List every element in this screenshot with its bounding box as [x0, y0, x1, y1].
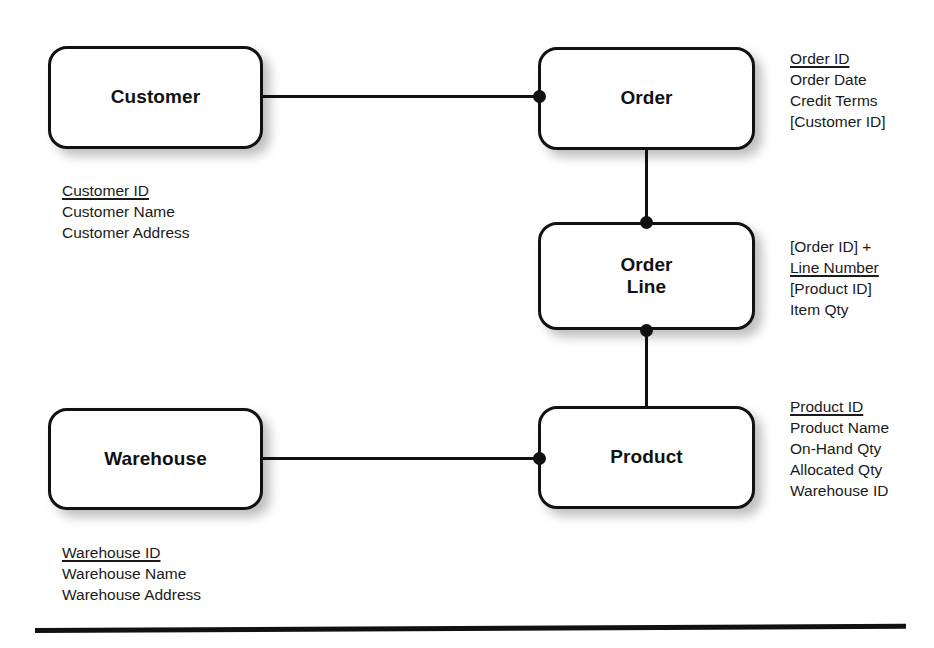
attribute-customer-id: Customer ID [62, 180, 190, 201]
attribute-order-date: Order Date [790, 69, 886, 90]
attribute-order-customer-id: [Customer ID] [790, 111, 886, 132]
cardinality-dot-order-line-top [640, 216, 653, 229]
attribute-line-number: Line Number [790, 257, 879, 278]
bottom-divider [35, 624, 906, 633]
attribute-on-hand-qty: On-Hand Qty [790, 438, 889, 459]
entity-label-warehouse: Warehouse [104, 448, 207, 470]
entity-label-order: Order [620, 87, 672, 109]
connector-order-order-line [645, 149, 648, 225]
attribute-list-order-line: [Order ID] + Line Number [Product ID] It… [790, 236, 879, 320]
attribute-order-line-order-id: [Order ID] + [790, 236, 879, 257]
attribute-list-warehouse: Warehouse ID Warehouse Name Warehouse Ad… [62, 542, 201, 605]
entity-warehouse[interactable]: Warehouse [48, 408, 263, 510]
attribute-product-id: Product ID [790, 396, 889, 417]
attribute-list-product: Product ID Product Name On-Hand Qty Allo… [790, 396, 889, 501]
cardinality-dot-order-line-bottom [640, 324, 653, 337]
connector-warehouse-product [262, 457, 540, 460]
attribute-warehouse-address: Warehouse Address [62, 584, 201, 605]
attribute-allocated-qty: Allocated Qty [790, 459, 889, 480]
attribute-credit-terms: Credit Terms [790, 90, 886, 111]
entity-label-product: Product [610, 446, 682, 468]
attribute-customer-address: Customer Address [62, 222, 190, 243]
attribute-order-id: Order ID [790, 48, 886, 69]
attribute-list-order: Order ID Order Date Credit Terms [Custom… [790, 48, 886, 132]
entity-order-line[interactable]: Order Line [538, 222, 755, 330]
attribute-list-customer: Customer ID Customer Name Customer Addre… [62, 180, 190, 243]
attribute-product-name: Product Name [790, 417, 889, 438]
connector-order-line-product [645, 328, 648, 407]
entity-customer[interactable]: Customer [48, 46, 263, 149]
cardinality-dot-order [533, 90, 546, 103]
entity-label-customer: Customer [111, 86, 200, 108]
attribute-warehouse-name: Warehouse Name [62, 563, 201, 584]
attribute-product-warehouse-id: Warehouse ID [790, 480, 889, 501]
attribute-order-line-product-id: [Product ID] [790, 278, 879, 299]
entity-order[interactable]: Order [538, 47, 755, 150]
attribute-customer-name: Customer Name [62, 201, 190, 222]
er-diagram-canvas: Customer Customer ID Customer Name Custo… [0, 0, 934, 648]
connector-customer-order [262, 95, 540, 98]
entity-label-order-line: Order Line [620, 254, 672, 299]
attribute-item-qty: Item Qty [790, 299, 879, 320]
entity-product[interactable]: Product [538, 406, 755, 509]
cardinality-dot-product [533, 452, 546, 465]
attribute-warehouse-id: Warehouse ID [62, 542, 201, 563]
